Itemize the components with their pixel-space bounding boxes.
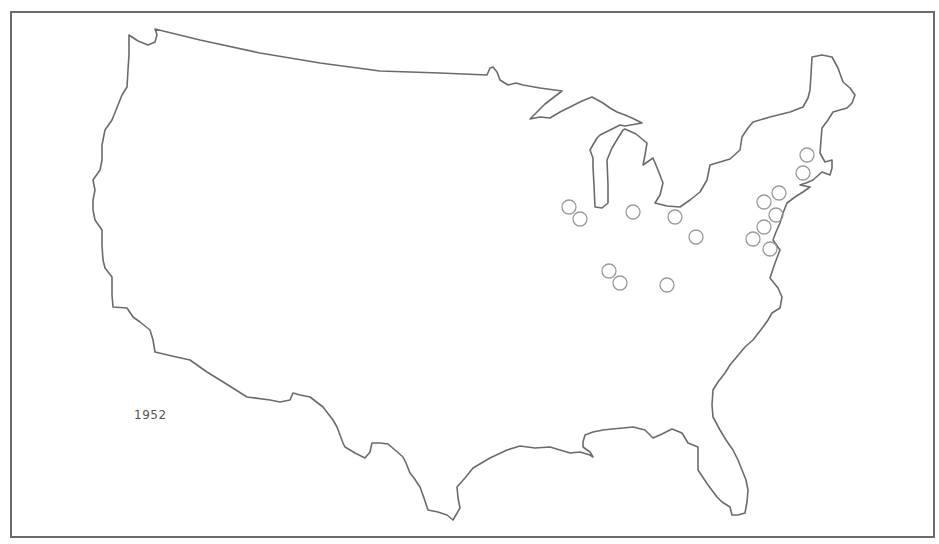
year-label: 1952 [134,408,167,422]
us-map [0,0,939,544]
us-outline [93,29,855,520]
